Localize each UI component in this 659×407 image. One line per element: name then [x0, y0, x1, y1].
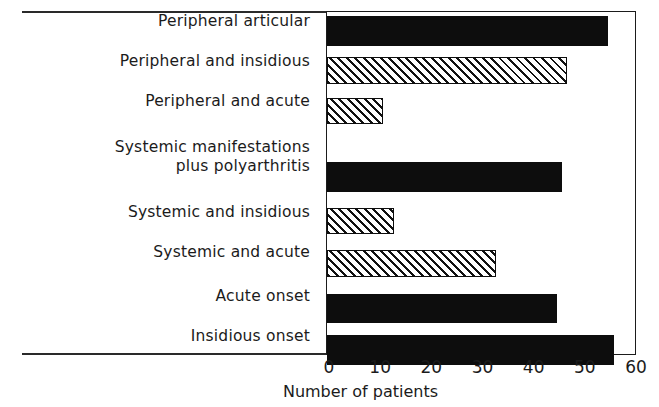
x-tick-5: 50 [574, 357, 596, 377]
bar-chart: Peripheral articular Peripheral and insi… [0, 0, 659, 407]
bar-2 [327, 98, 383, 124]
x-tick-3: 30 [472, 357, 494, 377]
bar-5 [327, 250, 496, 277]
plot-area [326, 11, 636, 355]
x-tick-2: 20 [421, 357, 443, 377]
bar-0 [327, 16, 608, 46]
bar-6 [327, 294, 557, 323]
x-tick-6: 60 [625, 357, 647, 377]
x-axis-title: Number of patients [0, 382, 659, 401]
bar-3 [327, 162, 562, 192]
category-label-4: Systemic and insidious [128, 203, 310, 222]
x-tick-4: 40 [523, 357, 545, 377]
category-label-6: Acute onset [216, 287, 310, 306]
category-label-7: Insidious onset [191, 327, 310, 346]
category-labels: Peripheral articular Peripheral and insi… [0, 10, 318, 355]
x-tick-0: 0 [324, 357, 335, 377]
category-label-2: Peripheral and acute [145, 92, 310, 111]
bar-4 [327, 208, 394, 234]
category-label-0: Peripheral articular [158, 12, 310, 31]
category-label-3: Systemic manifestations plus polyarthrit… [115, 138, 310, 176]
bar-1 [327, 57, 567, 84]
x-axis-title-text: Number of patients [283, 382, 438, 401]
category-label-5: Systemic and acute [153, 243, 310, 262]
x-axis-ticks: 0 10 20 30 40 50 60 [0, 357, 659, 381]
x-tick-1: 10 [369, 357, 391, 377]
category-label-1: Peripheral and insidious [120, 52, 310, 71]
